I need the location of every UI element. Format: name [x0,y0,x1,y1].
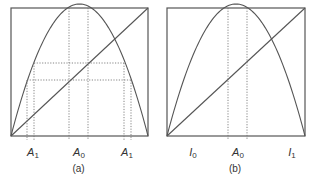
diagonal-line [11,8,148,136]
label-subscript: 1 [34,151,38,160]
panel-caption: (b) [229,164,241,174]
axis-label: A1 [121,147,133,160]
axis-label: A1 [27,147,39,160]
label-subscript: 1 [291,151,295,160]
label-subscript: 0 [80,151,84,160]
diagonal-line [167,8,305,136]
panel-caption: (a) [72,164,84,174]
axis-label: I0 [189,147,197,160]
label-subscript: 0 [192,151,196,160]
logistic-map-figure [0,0,315,182]
label-subscript: 0 [239,151,243,160]
label-subscript: 1 [128,151,132,160]
axis-label: I1 [288,147,296,160]
axis-label: A0 [73,147,85,160]
axis-label: A0 [232,147,244,160]
